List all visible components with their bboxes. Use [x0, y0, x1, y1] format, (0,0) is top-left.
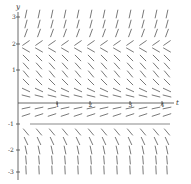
- slope-segment: [155, 146, 157, 154]
- slope-segment: [140, 41, 147, 46]
- slope-segment: [61, 95, 69, 97]
- slope-segment: [140, 129, 145, 135]
- slope-segment: [77, 29, 80, 37]
- y-tick-label: -1: [8, 120, 14, 127]
- slope-segment: [126, 114, 134, 116]
- slope-segment: [23, 129, 28, 135]
- slope-segment: [167, 156, 168, 164]
- x-tick-label: 3: [129, 101, 133, 108]
- slope-segment: [127, 55, 133, 61]
- slope-segment: [49, 63, 54, 69]
- slope-segment: [140, 71, 145, 77]
- slope-segment: [36, 79, 42, 85]
- slope-segment: [100, 88, 107, 91]
- slope-segment: [76, 137, 79, 144]
- slope-segment: [155, 29, 158, 37]
- slope-segment: [74, 107, 82, 109]
- slope-segment: [88, 41, 95, 46]
- slope-segment: [142, 10, 144, 18]
- slope-segment: [164, 129, 169, 135]
- y-tick-label: 2: [12, 40, 16, 47]
- slope-segment: [139, 88, 146, 91]
- slope-segment: [127, 63, 132, 69]
- slope-segment: [61, 114, 69, 116]
- slope-segment: [101, 41, 108, 46]
- slope-segment: [25, 146, 27, 154]
- slope-segment: [77, 146, 79, 154]
- slope-segment: [62, 79, 68, 85]
- slope-segment: [75, 63, 80, 69]
- slope-segment: [90, 29, 93, 37]
- slope-segment: [38, 10, 40, 18]
- slope-segment: [23, 55, 29, 61]
- slope-segment: [116, 146, 118, 154]
- slope-segment: [127, 129, 132, 135]
- slope-segment: [91, 156, 92, 164]
- slope-segment: [75, 55, 81, 61]
- slope-segment: [100, 107, 108, 109]
- slope-segment: [50, 137, 53, 144]
- slope-segment: [90, 10, 92, 18]
- y-tick-label: 3: [12, 13, 16, 20]
- slope-segment: [114, 48, 121, 52]
- slope-segment: [101, 55, 107, 61]
- direction-field-plot: y t 1234 321-1-2-3: [0, 0, 191, 184]
- slope-segment: [127, 41, 134, 46]
- slope-segment: [52, 156, 53, 164]
- slope-segment: [88, 63, 93, 69]
- slope-segment: [23, 48, 30, 52]
- slope-segment: [63, 137, 66, 144]
- slope-segment: [88, 79, 94, 85]
- slope-segment: [74, 95, 82, 97]
- slope-segment: [65, 156, 66, 164]
- slope-segment: [152, 88, 159, 91]
- slope-segment: [166, 29, 169, 37]
- slope-segment: [64, 10, 66, 18]
- slope-segment: [88, 48, 95, 52]
- slope-segment: [129, 10, 131, 18]
- slope-segment: [49, 55, 55, 61]
- slope-segment: [163, 95, 171, 97]
- slope-segment: [36, 71, 41, 77]
- slope-segment: [36, 63, 41, 69]
- slope-segment: [113, 95, 121, 97]
- slope-segment: [114, 129, 119, 135]
- slope-segment: [114, 79, 120, 85]
- slope-segment: [101, 48, 108, 52]
- slope-segment: [129, 29, 132, 37]
- slope-segment: [113, 107, 121, 109]
- slope-segment: [139, 114, 147, 116]
- slope-segment: [155, 20, 157, 28]
- slope-segment: [64, 20, 66, 28]
- y-tick-label: -3: [8, 168, 14, 175]
- slope-segments: [22, 10, 171, 174]
- slope-segment: [75, 48, 82, 52]
- slope-segment: [74, 88, 81, 91]
- slope-segment: [166, 10, 168, 18]
- slope-segment: [90, 20, 92, 28]
- slope-segment: [62, 41, 69, 46]
- slope-segment: [117, 156, 118, 164]
- slope-segment: [166, 146, 168, 154]
- slope-segment: [87, 88, 94, 91]
- slope-segment: [61, 88, 68, 91]
- slope-segment: [143, 156, 144, 164]
- slope-segment: [51, 146, 53, 154]
- slope-segment: [22, 88, 29, 91]
- slope-segment: [140, 48, 147, 52]
- slope-segment: [87, 95, 95, 97]
- slope-segment: [165, 137, 168, 144]
- slope-segment: [127, 71, 132, 77]
- slope-segment: [113, 114, 121, 116]
- slope-segment: [126, 95, 134, 97]
- slope-segment: [153, 79, 159, 85]
- slope-segment: [142, 29, 145, 37]
- slope-segment: [22, 107, 30, 109]
- slope-segment: [128, 137, 131, 144]
- slope-segment: [153, 129, 158, 135]
- slope-segment: [38, 146, 40, 154]
- slope-segment: [37, 137, 40, 144]
- slope-segment: [75, 129, 80, 135]
- slope-segment: [49, 48, 56, 52]
- slope-segment: [62, 48, 69, 52]
